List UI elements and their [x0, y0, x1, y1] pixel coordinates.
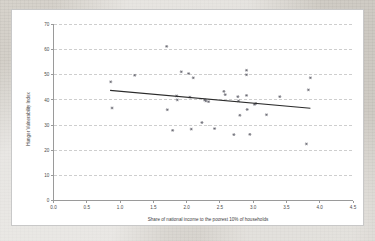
data-point: [200, 121, 203, 124]
x-tick-label: 1.5: [150, 205, 157, 210]
data-point: [245, 94, 248, 97]
data-point: [245, 73, 248, 76]
data-point: [222, 90, 225, 93]
data-points: [109, 45, 312, 145]
data-point: [133, 74, 136, 77]
trendline: [110, 90, 310, 108]
data-point: [265, 113, 268, 116]
data-point: [232, 133, 235, 136]
data-point: [278, 95, 281, 98]
x-tick-label: 1.0: [117, 205, 124, 210]
data-point: [224, 93, 227, 96]
data-point: [190, 128, 193, 131]
data-point: [207, 100, 210, 103]
data-point: [238, 114, 241, 117]
data-point: [192, 76, 195, 79]
data-point: [213, 127, 216, 130]
y-tick-label: 70: [44, 22, 50, 27]
y-tick-label: 40: [44, 98, 50, 103]
x-tick-label: 4.5: [350, 205, 357, 210]
data-point: [165, 45, 168, 48]
data-point: [180, 70, 183, 73]
x-tick-label: 4.0: [317, 205, 324, 210]
y-tick-label: 30: [44, 123, 50, 128]
x-axis-ticks: 0.00.51.01.52.02.53.03.54.04.5: [50, 201, 356, 210]
axis-lines: [54, 25, 354, 201]
y-tick-label: 0: [47, 198, 50, 203]
x-tick-label: 2.0: [183, 205, 190, 210]
x-tick-label: 0.5: [84, 205, 91, 210]
y-axis-title: Hunger Vulnerability Index: [26, 91, 31, 145]
data-point: [236, 95, 239, 98]
data-point: [109, 80, 112, 83]
data-point: [246, 108, 249, 111]
y-axis-ticks: 010203040506070: [44, 22, 53, 203]
chart-panel: 010203040506070 0.00.51.01.52.02.53.03.5…: [11, 9, 364, 226]
data-point: [171, 129, 174, 132]
y-tick-label: 10: [44, 173, 50, 178]
x-tick-label: 2.5: [217, 205, 224, 210]
y-tick-label: 20: [44, 148, 50, 153]
x-tick-label: 3.0: [250, 205, 257, 210]
x-axis-title: Share of national income to the poorest …: [148, 217, 269, 222]
data-point: [309, 76, 312, 79]
data-point: [176, 99, 179, 102]
data-point: [166, 108, 169, 111]
data-point: [111, 107, 114, 110]
scatter-plot: 010203040506070 0.00.51.01.52.02.53.03.5…: [12, 10, 365, 227]
data-point: [248, 133, 251, 136]
y-tick-label: 60: [44, 47, 50, 52]
chart-svg: 010203040506070 0.00.51.01.52.02.53.03.5…: [12, 10, 365, 227]
data-point: [305, 143, 308, 146]
x-tick-label: 0.0: [50, 205, 57, 210]
x-tick-label: 3.5: [283, 205, 290, 210]
data-point: [245, 69, 248, 72]
y-tick-label: 50: [44, 72, 50, 77]
data-point: [307, 89, 310, 92]
trendline-segment: [110, 90, 310, 108]
